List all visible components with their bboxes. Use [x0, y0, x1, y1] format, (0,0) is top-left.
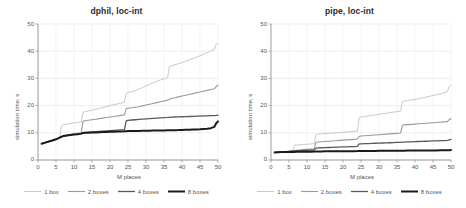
- legend-item[interactable]: 4 boxes: [118, 188, 159, 195]
- panel-pipe: pipe, loc-int simulation time, s M place…: [233, 0, 466, 208]
- legend-item[interactable]: 1 box: [257, 188, 292, 195]
- legend-item[interactable]: 4 boxes: [351, 188, 392, 195]
- plot-area-dphil: [0, 0, 233, 208]
- legend-line-swatch: [257, 188, 274, 195]
- legend-label: 1 box: [44, 189, 59, 195]
- legend-label: 1 box: [277, 189, 292, 195]
- legend-item[interactable]: 8 boxes: [401, 188, 442, 195]
- legend-line-swatch: [24, 188, 41, 195]
- legend-label: 2 boxes: [321, 189, 342, 195]
- legend-label: 2 boxes: [88, 189, 109, 195]
- legend-label: 4 boxes: [138, 189, 159, 195]
- plot-area-pipe: [233, 0, 466, 208]
- legend-pipe: 1 box2 boxes4 boxes8 boxes: [233, 188, 466, 195]
- legend-line-swatch: [168, 188, 185, 195]
- legend-item[interactable]: 2 boxes: [68, 188, 109, 195]
- legend-line-swatch: [351, 188, 368, 195]
- legend-label: 4 boxes: [371, 189, 392, 195]
- legend-line-swatch: [68, 188, 85, 195]
- legend-item[interactable]: 2 boxes: [301, 188, 342, 195]
- legend-line-swatch: [401, 188, 418, 195]
- legend-line-swatch: [301, 188, 318, 195]
- legend-item[interactable]: 8 boxes: [168, 188, 209, 195]
- figure-two-panel-line-charts: dphil, loc-int simulation time, s M plac…: [0, 0, 466, 208]
- legend-label: 8 boxes: [421, 189, 442, 195]
- legend-item[interactable]: 1 box: [24, 188, 59, 195]
- legend-line-swatch: [118, 188, 135, 195]
- legend-label: 8 boxes: [188, 189, 209, 195]
- panel-dphil: dphil, loc-int simulation time, s M plac…: [0, 0, 233, 208]
- legend-dphil: 1 box2 boxes4 boxes8 boxes: [0, 188, 233, 195]
